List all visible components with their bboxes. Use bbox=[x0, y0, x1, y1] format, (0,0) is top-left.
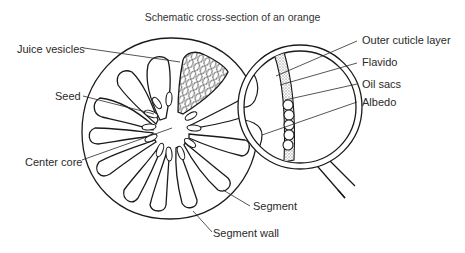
label-juice-vesicles: Juice vesicles bbox=[17, 43, 85, 55]
magnifying-glass bbox=[232, 45, 362, 198]
label-albedo: Albedo bbox=[362, 96, 396, 108]
label-center-core: Center core bbox=[25, 156, 82, 168]
label-segment-wall: Segment wall bbox=[213, 227, 279, 239]
label-segment: Segment bbox=[253, 200, 297, 212]
label-oil-sacs: Oil sacs bbox=[362, 78, 401, 90]
label-flavido: Flavido bbox=[362, 56, 397, 68]
label-seed: Seed bbox=[55, 90, 81, 102]
oil-sacs bbox=[283, 100, 294, 150]
label-outer-cuticle-layer: Outer cuticle layer bbox=[362, 34, 451, 46]
